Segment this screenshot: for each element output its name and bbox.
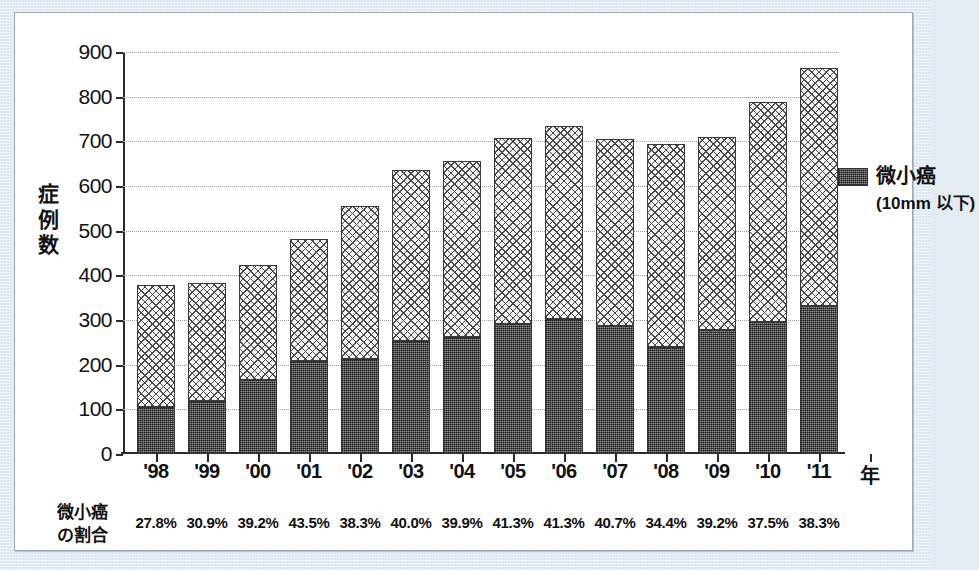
y-tick-600 [116,186,123,188]
legend-title: 微小癌 [876,165,975,187]
ratio-row-label: 微小癌 の割合 [39,502,125,547]
ratio-value-11: 38.3% [798,514,839,531]
bar-segment-micro [749,322,787,454]
bar-06 [545,126,583,454]
ratio-value-06: 41.3% [543,514,584,531]
x-axis-label-02: '02 [347,460,373,483]
bar-03 [392,170,430,454]
ratio-row-label-line2: の割合 [39,525,125,548]
bar-segment-micro [494,324,532,454]
y-axis-title-char-1: 例 [33,207,63,233]
ratio-value-00: 39.2% [237,514,278,531]
bar-segment-other [341,206,379,359]
bar-segment-micro [443,337,481,454]
y-tick-900 [116,52,123,54]
bar-segment-micro [596,326,634,454]
bar-04 [443,161,481,454]
bar-02 [341,206,379,454]
chart-card: 症例数 0100200300400500600700800900 年 微小癌 の… [14,12,913,551]
y-axis-title-char-0: 症 [33,181,63,207]
y-tick-label-400: 400 [78,263,112,287]
legend-item-micro-cancer: 微小癌 (10mm 以下) [838,165,979,214]
y-tick-200 [116,365,123,367]
y-tick-700 [116,141,123,143]
ratio-value-07: 40.7% [594,514,635,531]
x-axis-label-04: '04 [449,460,475,483]
ratio-value-03: 40.0% [390,514,431,531]
ratio-value-98: 27.8% [135,514,176,531]
bar-segment-micro [392,341,430,454]
bar-segment-micro [341,359,379,454]
bar-segment-other [188,283,226,401]
bar-segment-micro [188,401,226,454]
gridline-900 [123,52,837,53]
bar-segment-micro [698,330,736,454]
y-tick-0 [116,454,123,456]
ratio-value-09: 39.2% [696,514,737,531]
bar-10 [749,102,787,454]
y-tick-100 [116,409,123,411]
y-tick-label-900: 900 [78,40,112,64]
x-axis-label-06: '06 [551,460,577,483]
bar-segment-other [647,144,685,348]
ratio-value-10: 37.5% [747,514,788,531]
bar-segment-micro [290,361,328,454]
y-tick-800 [116,97,123,99]
x-axis-line [121,452,845,454]
bar-01 [290,239,328,454]
x-axis-title: 年 [860,460,880,489]
bar-segment-other [392,170,430,340]
x-axis-label-09: '09 [704,460,730,483]
y-tick-label-600: 600 [78,174,112,198]
bar-08 [647,144,685,454]
x-axis-label-98: '98 [143,460,169,483]
y-tick-label-800: 800 [78,85,112,109]
ratio-value-01: 43.5% [288,514,329,531]
bar-98 [137,285,175,454]
bar-segment-other [800,68,838,306]
y-axis-line [123,52,125,454]
plot-area: 0100200300400500600700800900 [123,52,837,454]
x-axis-label-99: '99 [194,460,220,483]
bar-11 [800,68,838,454]
x-axis-label-05: '05 [500,460,526,483]
y-tick-label-500: 500 [78,219,112,243]
ratio-value-08: 34.4% [645,514,686,531]
bar-segment-micro [545,319,583,454]
ratio-value-02: 38.3% [339,514,380,531]
bar-segment-other [137,285,175,407]
bar-segment-micro [800,306,838,454]
ratio-value-05: 41.3% [492,514,533,531]
y-tick-300 [116,320,123,322]
gridline-800 [123,97,837,98]
legend-text: 微小癌 (10mm 以下) [876,165,975,214]
x-axis-label-01: '01 [296,460,322,483]
bar-07 [596,139,634,454]
y-tick-label-100: 100 [78,397,112,421]
ratio-value-99: 30.9% [186,514,227,531]
y-tick-500 [116,231,123,233]
y-tick-400 [116,275,123,277]
x-axis-label-11: '11 [807,460,831,483]
x-axis-label-00: '00 [245,460,271,483]
x-axis-label-08: '08 [653,460,679,483]
bar-segment-micro [647,347,685,454]
legend-subtitle: (10mm 以下) [876,189,975,214]
y-axis-title: 症例数 [33,181,63,258]
bar-05 [494,138,532,454]
y-tick-label-700: 700 [78,129,112,153]
x-axis-label-07: '07 [602,460,628,483]
bar-09 [698,137,736,454]
bar-segment-other [698,137,736,330]
x-axis-label-10: '10 [755,460,781,483]
bar-segment-micro [239,380,277,454]
y-tick-label-0: 0 [101,442,112,466]
bar-segment-micro [137,407,175,454]
micro-cancer-swatch-icon [838,168,868,186]
ratio-row-label-line1: 微小癌 [39,502,125,525]
y-axis-title-char-2: 数 [33,232,63,258]
bar-segment-other [749,102,787,322]
bar-segment-other [494,138,532,323]
bar-segment-other [239,265,277,380]
